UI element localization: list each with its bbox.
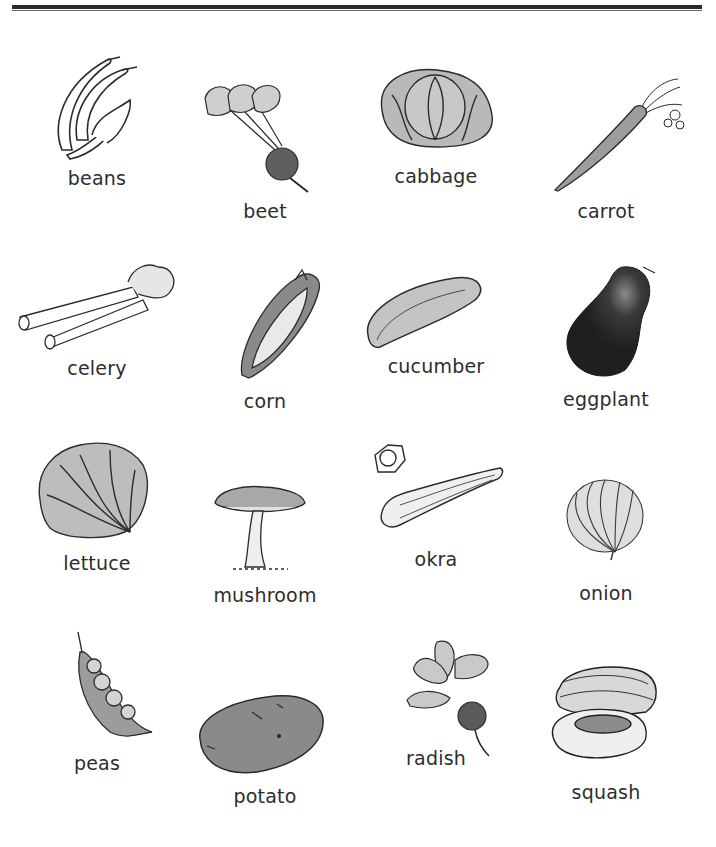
- label-radish: radish: [406, 747, 466, 769]
- label-beans: beans: [68, 167, 126, 189]
- label-cucumber: cucumber: [388, 355, 485, 377]
- cucumber-illustration: [365, 275, 485, 350]
- squash-illustration: [548, 662, 663, 762]
- label-peas: peas: [74, 752, 120, 774]
- radish-illustration: [405, 640, 500, 760]
- beans-illustration: [52, 55, 142, 160]
- lettuce-illustration: [35, 440, 153, 540]
- label-mushroom: mushroom: [213, 584, 316, 606]
- celery-illustration: [18, 262, 178, 347]
- header-rule-thick: [12, 5, 702, 9]
- label-cabbage: cabbage: [394, 165, 477, 187]
- label-squash: squash: [572, 781, 641, 803]
- label-celery: celery: [67, 357, 126, 379]
- eggplant-illustration: [565, 265, 660, 380]
- cabbage-illustration: [377, 65, 495, 150]
- label-potato: potato: [233, 785, 296, 807]
- label-onion: onion: [579, 582, 633, 604]
- mushroom-illustration: [213, 485, 308, 575]
- okra-illustration: [370, 440, 510, 540]
- corn-illustration: [237, 270, 327, 380]
- onion-illustration: [565, 478, 650, 560]
- beet-illustration: [200, 78, 315, 193]
- label-carrot: carrot: [577, 200, 634, 222]
- label-okra: okra: [415, 548, 458, 570]
- label-lettuce: lettuce: [63, 552, 130, 574]
- potato-illustration: [197, 694, 327, 776]
- label-beet: beet: [243, 200, 287, 222]
- header-rule-thin: [12, 10, 702, 11]
- label-eggplant: eggplant: [563, 388, 649, 410]
- carrot-illustration: [550, 75, 690, 193]
- peas-illustration: [70, 632, 155, 740]
- label-corn: corn: [244, 390, 286, 412]
